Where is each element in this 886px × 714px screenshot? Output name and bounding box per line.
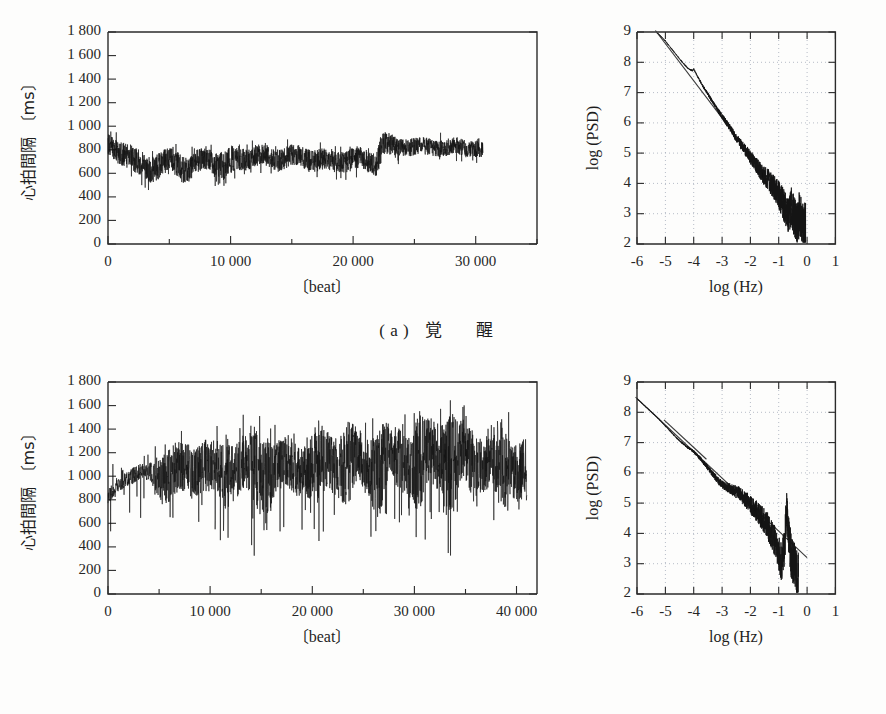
y-tick-label: 1 000 bbox=[67, 117, 101, 133]
y-tick-label: 3 bbox=[624, 554, 632, 570]
x-tick-label: -2 bbox=[744, 253, 757, 269]
x-tick-label: -6 bbox=[631, 603, 644, 619]
x-axis-title-psd-b: log (Hz) bbox=[709, 628, 763, 646]
y-tick-label: 9 bbox=[624, 372, 632, 388]
timeseries-trace-b bbox=[108, 400, 527, 555]
y-tick-label: 5 bbox=[624, 494, 632, 510]
y-tick-label: 0 bbox=[94, 584, 102, 600]
y-tick-label: 1 800 bbox=[67, 372, 101, 388]
x-tick-label: 0 bbox=[104, 253, 112, 269]
y-tick-label: 5 bbox=[624, 144, 632, 160]
y-tick-label: 400 bbox=[79, 537, 102, 553]
y-axis-title-a: 心拍間隔 〔ms〕 bbox=[19, 75, 38, 200]
caption-a-text: 覚 醒 bbox=[425, 320, 506, 340]
x-axis-title-psd-a: log (Hz) bbox=[709, 278, 763, 296]
caption-a-label: ( a ) bbox=[379, 321, 409, 340]
caption-a: ( a )覚 醒 bbox=[0, 316, 886, 341]
x-tick-label: -5 bbox=[659, 253, 672, 269]
y-tick-label: 6 bbox=[624, 113, 632, 129]
x-tick-label: 30 000 bbox=[455, 253, 496, 269]
y-tick-label: 200 bbox=[79, 211, 102, 227]
x-axis-ticks-b bbox=[108, 586, 517, 594]
y-tick-label: 1 600 bbox=[67, 396, 101, 412]
y-tick-label: 1 400 bbox=[67, 70, 101, 86]
y-tick-label: 8 bbox=[624, 403, 632, 419]
x-tick-label: 20 000 bbox=[332, 253, 373, 269]
psd-plot-b: log (PSD) bbox=[560, 350, 886, 700]
y-tick-label: 1 800 bbox=[67, 22, 101, 38]
x-tick-label: -5 bbox=[659, 603, 672, 619]
y-axis-title-psd-a: log (PSD) bbox=[584, 106, 602, 170]
x-tick-label: -4 bbox=[687, 603, 700, 619]
y-tick-label: 600 bbox=[79, 514, 102, 530]
y-tick-label: 0 bbox=[94, 234, 102, 250]
y-tick-label: 2 bbox=[624, 234, 632, 250]
y-tick-label: 2 bbox=[624, 584, 632, 600]
y-axis-ticks-b bbox=[108, 382, 537, 594]
y-axis-ticks-a bbox=[108, 32, 537, 244]
x-tick-label: 40 000 bbox=[496, 603, 537, 619]
timeseries-trace-a bbox=[108, 132, 483, 190]
y-tick-label: 9 bbox=[624, 22, 632, 38]
y-tick-label: 8 bbox=[624, 53, 632, 69]
x-tick-label: 10 000 bbox=[210, 253, 251, 269]
x-tick-label: -1 bbox=[772, 253, 785, 269]
y-tick-label: 1 200 bbox=[67, 93, 101, 109]
x-tick-label: -6 bbox=[631, 253, 644, 269]
x-tick-label: -2 bbox=[744, 603, 757, 619]
x-tick-label: 0 bbox=[803, 603, 811, 619]
y-axis-title-psd-b: log (PSD) bbox=[584, 456, 602, 520]
y-axis-title-b: 心拍間隔 〔ms〕 bbox=[19, 425, 38, 550]
y-tick-label: 800 bbox=[79, 490, 102, 506]
panel-a: 心拍間隔 〔ms〕 0 bbox=[0, 0, 886, 350]
x-tick-label: 0 bbox=[803, 253, 811, 269]
psd-plot-a: log (PSD) bbox=[560, 0, 886, 350]
y-tick-label: 1 600 bbox=[67, 46, 101, 62]
y-tick-label: 200 bbox=[79, 561, 102, 577]
x-tick-label: -3 bbox=[716, 603, 729, 619]
y-tick-label: 3 bbox=[624, 204, 632, 220]
y-tick-label: 1 400 bbox=[67, 420, 101, 436]
panel-b: 心拍間隔 〔ms〕 0 200 bbox=[0, 350, 886, 700]
x-tick-label: 1 bbox=[832, 253, 840, 269]
y-tick-label: 400 bbox=[79, 187, 102, 203]
x-tick-label: 1 bbox=[832, 603, 840, 619]
x-tick-label: 0 bbox=[104, 603, 112, 619]
psd-trace-b bbox=[636, 397, 807, 592]
y-tick-label: 4 bbox=[624, 174, 632, 190]
figure-container: 心拍間隔 〔ms〕 0 bbox=[0, 0, 886, 714]
y-tick-label: 6 bbox=[624, 463, 632, 479]
y-tick-label: 1 000 bbox=[67, 467, 101, 483]
timeseries-plot-a: 心拍間隔 〔ms〕 0 bbox=[0, 0, 560, 350]
plot-frame-a bbox=[108, 32, 537, 244]
y-tick-label: 4 bbox=[624, 524, 632, 540]
x-tick-label: 20 000 bbox=[292, 603, 333, 619]
x-axis-ticks-a bbox=[108, 236, 537, 244]
y-tick-label: 7 bbox=[624, 433, 632, 449]
x-axis-title-b: 〔beat〕 bbox=[293, 628, 352, 645]
plot-frame-b bbox=[108, 382, 537, 594]
x-tick-label: -1 bbox=[772, 603, 785, 619]
y-tick-label: 800 bbox=[79, 140, 102, 156]
timeseries-plot-b: 心拍間隔 〔ms〕 0 200 bbox=[0, 350, 560, 700]
x-tick-label: 30 000 bbox=[394, 603, 435, 619]
y-tick-label: 7 bbox=[624, 83, 632, 99]
x-tick-label: -3 bbox=[716, 253, 729, 269]
x-axis-title-a: 〔beat〕 bbox=[293, 278, 352, 295]
x-tick-label: -4 bbox=[687, 253, 700, 269]
y-tick-label: 1 200 bbox=[67, 443, 101, 459]
x-tick-label: 10 000 bbox=[189, 603, 230, 619]
y-tick-label: 600 bbox=[79, 164, 102, 180]
